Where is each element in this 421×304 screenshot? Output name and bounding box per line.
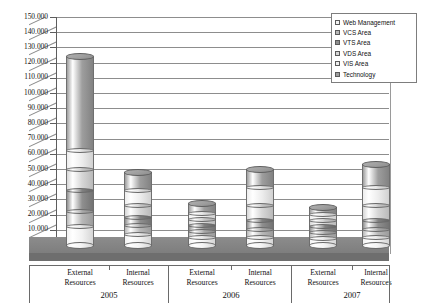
y-tick (50, 78, 57, 79)
y-tick-label: 140.000 (2, 28, 48, 36)
y-tick-label: 70.000 (2, 134, 48, 142)
gridline (56, 215, 389, 216)
stacked-cylinder-chart: 150.000140.000130.000120.000110.000100.0… (0, 0, 421, 304)
y-tick-label: 120.000 (2, 58, 48, 66)
y-tick (50, 199, 57, 200)
bar-segment[interactable] (66, 57, 94, 151)
legend-swatch-vts-area (335, 40, 340, 45)
legend-label: Web Management (343, 19, 395, 26)
x-category-tick (109, 265, 110, 270)
cylinder-base (309, 242, 337, 249)
bar-cylinder[interactable] (246, 0, 274, 304)
y-tick-label: 80.000 (2, 119, 48, 127)
bar-cylinder[interactable] (188, 0, 216, 304)
y-tick-label: 100.000 (2, 89, 48, 97)
y-tick-label: 60.000 (2, 149, 48, 157)
x-group-separator (29, 265, 30, 303)
segment-divider (188, 223, 216, 228)
legend-swatch-vds-area (335, 51, 340, 56)
y-tick (50, 215, 57, 216)
y-tick (50, 47, 57, 48)
segment-divider (246, 203, 274, 208)
legend-label: VCS Area (343, 29, 371, 36)
bar-cylinder[interactable] (66, 0, 94, 304)
y-tick-label: 90.000 (2, 104, 48, 112)
legend-item[interactable]: VCS Area (335, 27, 414, 37)
legend-swatch-web-management (335, 20, 340, 25)
segment-divider (362, 203, 390, 208)
y-tick (50, 230, 57, 231)
x-axis-labels: ExternalResourcesInternalResourcesExtern… (0, 261, 421, 304)
gridline (56, 154, 389, 155)
cylinder-top (66, 53, 94, 60)
y-tick-label: 50.000 (2, 165, 48, 173)
y-tick (50, 184, 57, 185)
segment-divider (66, 167, 94, 172)
x-category-tick (231, 265, 232, 270)
gridline (56, 108, 389, 109)
segment-divider (188, 217, 216, 222)
cylinder-top (362, 161, 390, 168)
x-axis-year-label: 2005 (64, 290, 154, 300)
cylinder-top (124, 169, 152, 176)
bar-cylinder[interactable] (124, 0, 152, 304)
cylinder-base (66, 242, 94, 249)
gridline (56, 123, 389, 124)
legend-item[interactable]: Technology (335, 69, 414, 79)
legend-label: VDS Area (343, 50, 371, 57)
segment-divider (246, 235, 274, 240)
y-tick-label: 130.000 (2, 43, 48, 51)
x-axis-category-label: InternalResources (103, 268, 173, 287)
legend-swatch-vis-area (335, 61, 340, 66)
gridline (56, 169, 389, 170)
segment-divider (188, 211, 216, 216)
segment-divider (362, 235, 390, 240)
segment-divider (188, 229, 216, 234)
x-group-separator (168, 265, 169, 303)
y-tick (50, 169, 57, 170)
legend-item[interactable]: VTS Area (335, 38, 414, 48)
gridline (56, 199, 389, 200)
gridline (56, 93, 389, 94)
legend-item[interactable]: VIS Area (335, 59, 414, 69)
x-axis-line (29, 265, 389, 266)
x-label-line: Resources (341, 278, 411, 288)
legend-item[interactable]: Web Management (335, 17, 414, 27)
y-tick (50, 63, 57, 64)
y-tick-label: 10.000 (2, 225, 48, 233)
x-axis-category-label: InternalResources (225, 268, 295, 287)
legend-label: VTS Area (343, 39, 370, 46)
cylinder-base (246, 242, 274, 249)
y-tick (50, 17, 57, 18)
gridline (56, 184, 389, 185)
segment-divider (188, 235, 216, 240)
x-label-line: Resources (225, 278, 295, 288)
segment-divider (362, 185, 390, 190)
segment-divider (124, 223, 152, 228)
x-label-line: Resources (103, 278, 173, 288)
y-tick (50, 108, 57, 109)
segment-divider (246, 185, 274, 190)
x-axis-category-label: InternalResources (341, 268, 411, 287)
legend: Web Management VCS Area VTS Area VDS Are… (331, 13, 417, 83)
segment-divider (124, 188, 152, 193)
y-tick-label: 110.000 (2, 73, 48, 81)
segment-divider (66, 188, 94, 193)
legend-swatch-technology (335, 72, 340, 77)
y-tick (50, 32, 57, 33)
gridline (56, 139, 389, 140)
segment-divider (124, 232, 152, 237)
cylinder-base (188, 242, 216, 249)
y-tick-label: 20.000 (2, 210, 48, 218)
y-tick-label: 150.000 (2, 13, 48, 21)
cylinder-base (362, 242, 390, 249)
y-tick (50, 139, 57, 140)
gridline (56, 230, 389, 231)
y-tick (50, 93, 57, 94)
x-axis-year-label: 2006 (186, 290, 276, 300)
cylinder-top (309, 204, 337, 211)
y-tick-label: 40.000 (2, 180, 48, 188)
legend-item[interactable]: VDS Area (335, 48, 414, 58)
x-category-tick (352, 265, 353, 270)
y-tick (50, 123, 57, 124)
